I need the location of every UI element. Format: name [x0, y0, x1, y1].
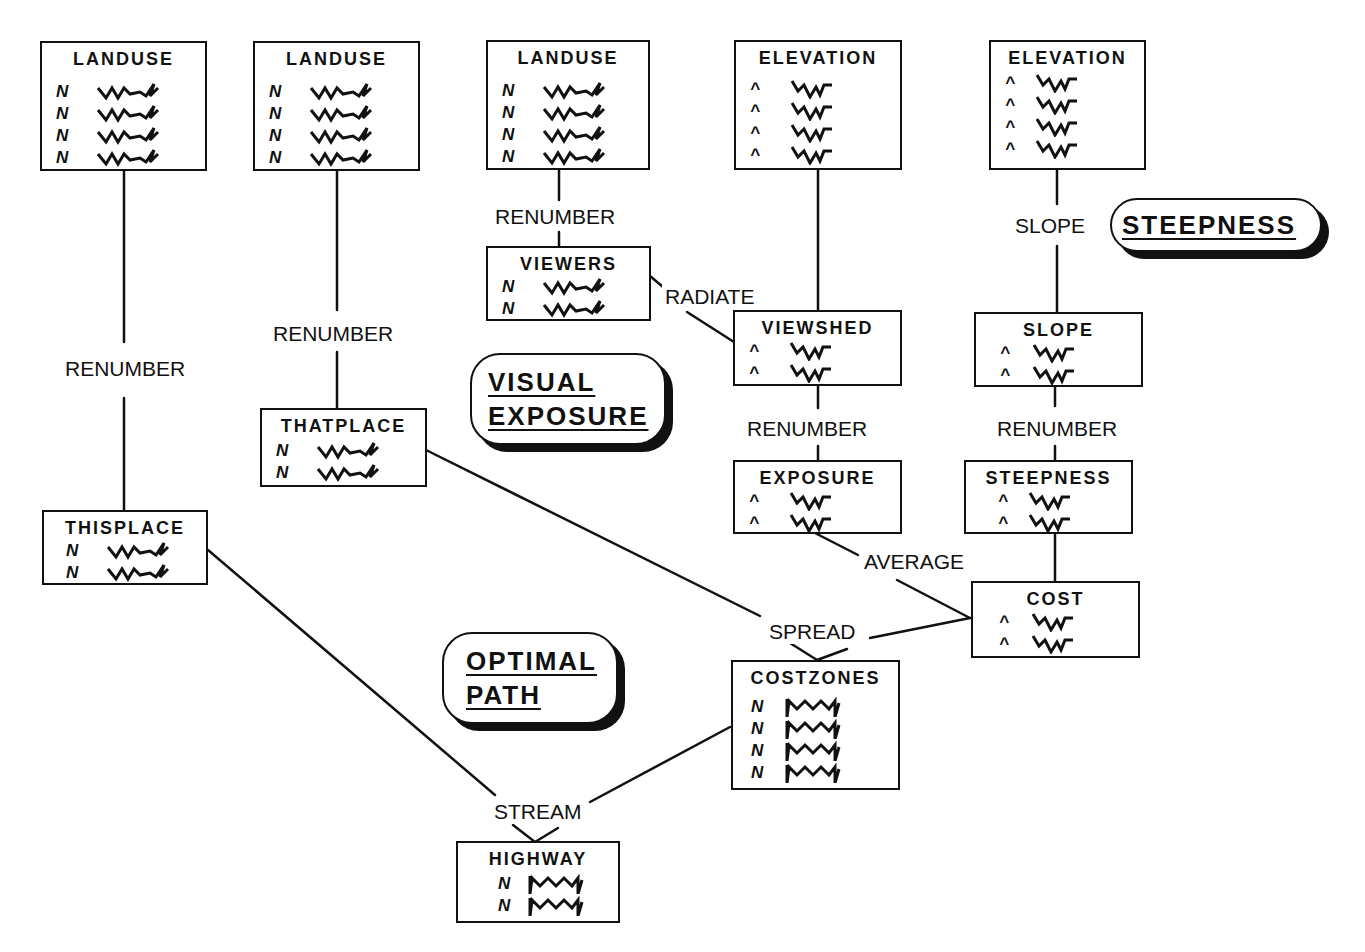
node-landuse-1: LANDUSE N N N N — [40, 41, 207, 171]
legend-rows: N N — [502, 276, 639, 320]
op-renumber-thisplace: RENUMBER — [62, 357, 188, 381]
label-scribble-icon — [1035, 73, 1079, 93]
node-title: EXPOSURE — [735, 468, 900, 489]
op-renumber-thatplace: RENUMBER — [270, 322, 396, 346]
op-spread: SPREAD — [766, 620, 858, 644]
node-cost: COST ^ ^ — [971, 581, 1140, 658]
label-scribble-icon — [790, 123, 834, 143]
label-scribble-icon — [96, 148, 160, 168]
label-scribble-icon — [106, 563, 170, 583]
label-scribble-icon — [785, 719, 841, 739]
category-symbol-icon: ^ — [999, 634, 1031, 654]
node-title: VIEWSHED — [735, 318, 900, 339]
category-symbol-icon: N — [502, 125, 542, 145]
category-symbol-icon: N — [502, 299, 542, 319]
op-radiate: RADIATE — [662, 285, 757, 309]
category-symbol-icon: ^ — [1000, 343, 1032, 363]
label-scribble-icon — [96, 104, 160, 124]
legend-rows: ^ ^ — [749, 340, 890, 384]
label-scribble-icon — [96, 126, 160, 146]
label-scribble-icon — [528, 896, 584, 916]
label-scribble-icon — [542, 125, 606, 145]
legend-rows: N N N N — [751, 696, 888, 784]
legend-rows: ^ ^ — [999, 611, 1128, 655]
op-renumber-steepness: RENUMBER — [994, 417, 1120, 441]
node-elevation-2: ELEVATION ^ ^ ^ ^ — [989, 40, 1146, 170]
node-title: VIEWERS — [488, 254, 649, 275]
category-symbol-icon: N — [276, 463, 316, 483]
label-scribble-icon — [542, 277, 606, 297]
category-symbol-icon: N — [502, 277, 542, 297]
node-title: STEEPNESS — [966, 468, 1131, 489]
category-symbol-icon: N — [56, 148, 96, 168]
category-symbol-icon: ^ — [749, 513, 789, 533]
category-symbol-icon: ^ — [1005, 117, 1035, 137]
node-landuse-3: LANDUSE N N N N — [486, 40, 650, 170]
category-symbol-icon: ^ — [750, 145, 790, 165]
category-symbol-icon: ^ — [1005, 73, 1035, 93]
category-symbol-icon: ^ — [998, 513, 1028, 533]
label-scribble-icon — [1035, 139, 1079, 159]
label-scribble-icon — [96, 82, 160, 102]
legend-rows: N N N N — [56, 81, 195, 169]
node-viewshed: VIEWSHED ^ ^ — [733, 310, 902, 386]
category-symbol-icon: N — [66, 541, 106, 561]
node-title: SLOPE — [976, 320, 1141, 341]
node-title: HIGHWAY — [458, 849, 618, 870]
op-renumber-viewers: RENUMBER — [492, 205, 618, 229]
category-symbol-icon: N — [751, 697, 785, 717]
node-title: ELEVATION — [991, 48, 1144, 69]
label-scribble-icon — [542, 81, 606, 101]
node-steepness: STEEPNESS ^ ^ — [964, 460, 1133, 534]
node-slope: SLOPE ^ ^ — [974, 312, 1143, 387]
node-title: LANDUSE — [255, 49, 418, 70]
category-symbol-icon: ^ — [998, 491, 1028, 511]
label-scribble-icon — [1028, 491, 1072, 511]
category-symbol-icon: N — [751, 763, 785, 783]
badge-visual-exposure: VISUAL EXPOSURE — [470, 353, 666, 445]
legend-rows: ^ ^ ^ ^ — [1005, 72, 1134, 160]
legend-rows: N N — [276, 440, 415, 484]
category-symbol-icon: N — [66, 563, 106, 583]
category-symbol-icon: ^ — [1005, 95, 1035, 115]
node-viewers: VIEWERS N N — [486, 246, 651, 321]
category-symbol-icon: N — [498, 896, 528, 916]
node-exposure: EXPOSURE ^ ^ — [733, 460, 902, 534]
label-scribble-icon — [309, 82, 373, 102]
category-symbol-icon: N — [56, 126, 96, 146]
category-symbol-icon: ^ — [1000, 365, 1032, 385]
label-scribble-icon — [1035, 117, 1079, 137]
op-average: AVERAGE — [861, 550, 967, 574]
node-thisplace: THISPLACE N N — [42, 510, 208, 585]
category-symbol-icon: ^ — [749, 363, 789, 383]
label-scribble-icon — [785, 741, 841, 761]
label-scribble-icon — [1035, 95, 1079, 115]
node-highway: HIGHWAY N N — [456, 841, 620, 923]
label-scribble-icon — [316, 463, 380, 483]
category-symbol-icon: N — [276, 441, 316, 461]
category-symbol-icon: ^ — [999, 612, 1031, 632]
category-symbol-icon: N — [269, 148, 309, 168]
badge-optimal-path: OPTIMAL PATH — [442, 632, 618, 724]
op-slope: SLOPE — [1012, 214, 1088, 238]
category-symbol-icon: ^ — [750, 123, 790, 143]
label-scribble-icon — [309, 148, 373, 168]
legend-rows: ^ ^ ^ ^ — [750, 78, 890, 166]
label-scribble-icon — [542, 147, 606, 167]
node-title: THISPLACE — [44, 518, 206, 539]
label-scribble-icon — [790, 79, 834, 99]
node-title: ELEVATION — [736, 48, 900, 69]
label-scribble-icon — [785, 697, 841, 717]
label-scribble-icon — [1031, 634, 1075, 654]
node-costzones: COSTZONES N N N N — [731, 660, 900, 790]
node-title: LANDUSE — [488, 48, 648, 69]
category-symbol-icon: N — [751, 741, 785, 761]
label-scribble-icon — [790, 145, 834, 165]
category-symbol-icon: ^ — [749, 491, 789, 511]
label-scribble-icon — [528, 874, 584, 894]
category-symbol-icon: ^ — [750, 79, 790, 99]
node-elevation-1: ELEVATION ^ ^ ^ ^ — [734, 40, 902, 170]
node-thatplace: THATPLACE N N — [260, 408, 427, 487]
category-symbol-icon: ^ — [1005, 139, 1035, 159]
op-stream: STREAM — [491, 800, 585, 824]
